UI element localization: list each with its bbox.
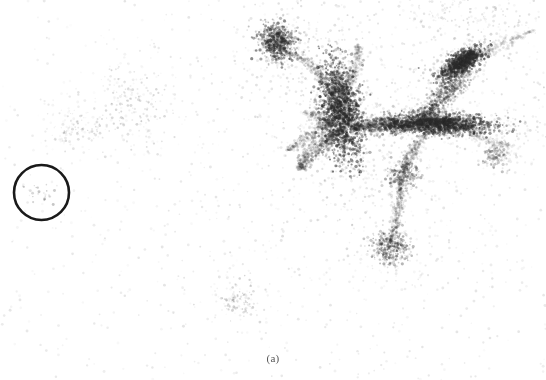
- figure-panel: (a): [0, 0, 546, 380]
- scatter-plot-canvas: [0, 0, 546, 380]
- figure-caption: (a): [0, 352, 546, 364]
